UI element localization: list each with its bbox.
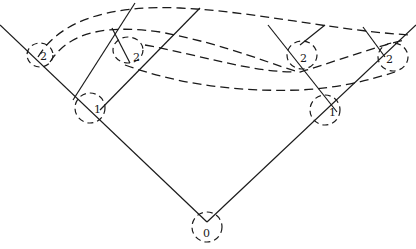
node-label-root: 0	[203, 227, 210, 240]
node-label-right-1: 1	[329, 106, 336, 119]
node-label-right-outer-2: 2	[386, 53, 393, 66]
dashed-link-outer-outer	[38, 8, 410, 57]
left-main-arm	[0, 25, 207, 222]
node-label-left-outer-2: 2	[40, 50, 47, 63]
left-outer-branch	[73, 3, 135, 100]
left-inner-tick	[112, 28, 130, 63]
dashed-link-outer-inner	[50, 29, 405, 72]
right-main-arm	[207, 25, 416, 222]
right-inner-tick	[300, 25, 325, 45]
node-label-right-inner-2: 2	[300, 52, 307, 65]
dashed-link-inner-inner	[145, 45, 295, 72]
tree-diagram: 0 1 1 2 2 2 2	[0, 0, 416, 249]
node-label-left-1: 1	[94, 103, 101, 116]
left-inner-branch	[100, 8, 200, 110]
node-label-left-inner-2: 2	[133, 51, 140, 64]
